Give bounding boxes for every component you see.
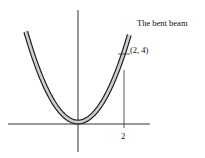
bent-beam-diagram: The bent beam (2, 4) 2 — [0, 0, 205, 158]
point-label: (2, 4) — [130, 45, 149, 55]
beam-label: The bent beam — [137, 18, 188, 28]
x-tick-label: 2 — [121, 131, 125, 141]
